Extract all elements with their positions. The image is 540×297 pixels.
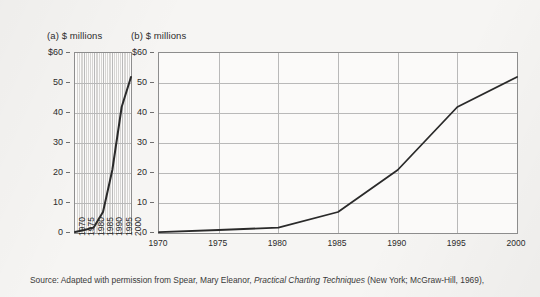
x-axis-tick-label: 2000 bbox=[507, 238, 526, 248]
page-background: (a) $ millions $6050403020100 1970197519… bbox=[0, 0, 540, 297]
y-axis-tick-mark bbox=[66, 202, 70, 203]
caption-book-title: Practical Charting Techniques bbox=[254, 275, 365, 285]
x-axis-tick-label: 1970 bbox=[149, 238, 168, 248]
data-series-line bbox=[159, 53, 517, 233]
y-axis-tick-label: 50 bbox=[121, 77, 147, 87]
y-axis-tick-mark bbox=[66, 232, 70, 233]
y-axis-tick-mark bbox=[66, 112, 70, 113]
x-axis-tick-label: 1995 bbox=[447, 238, 466, 248]
chart-a-y-axis: $6050403020100 bbox=[44, 52, 70, 234]
y-axis-tick-label: 0 bbox=[37, 227, 63, 237]
y-axis-tick-label: $60 bbox=[37, 47, 63, 57]
x-axis-tick-label: 1975 bbox=[208, 238, 227, 248]
y-axis-tick-label: 50 bbox=[37, 77, 63, 87]
x-axis-tick-label: 1990 bbox=[387, 238, 406, 248]
y-axis-tick-mark bbox=[66, 142, 70, 143]
chart-a-x-axis: 1970197519801985199019952000 bbox=[74, 236, 132, 268]
y-axis-tick-mark bbox=[150, 142, 154, 143]
chart-b-title: (b) $ millions bbox=[131, 30, 186, 41]
y-axis-tick-label: 10 bbox=[121, 197, 147, 207]
y-axis-tick-label: $60 bbox=[121, 47, 147, 57]
y-axis-tick-mark bbox=[150, 202, 154, 203]
y-axis-tick-label: 30 bbox=[121, 137, 147, 147]
caption-tail: (New York; McGraw-Hill, 1969), bbox=[365, 275, 484, 285]
x-axis-tick-label: 1985 bbox=[328, 238, 347, 248]
source-caption: Source: Adapted with permission from Spe… bbox=[30, 275, 530, 286]
y-axis-tick-label: 40 bbox=[121, 107, 147, 117]
chart-b-y-axis: $6050403020100 bbox=[128, 52, 154, 234]
x-axis-tick-label: 1975 bbox=[86, 217, 96, 236]
y-axis-tick-mark bbox=[66, 82, 70, 83]
y-axis-tick-mark bbox=[66, 52, 70, 53]
y-axis-tick-label: 20 bbox=[121, 167, 147, 177]
figure-area: (a) $ millions $6050403020100 1970197519… bbox=[0, 0, 540, 268]
y-axis-tick-mark bbox=[150, 232, 154, 233]
chart-b-x-axis: 1970197519801985199019952000 bbox=[158, 238, 518, 252]
chart-b-plot-area bbox=[158, 52, 518, 234]
chart-a-title: (a) $ millions bbox=[47, 30, 102, 41]
y-axis-tick-mark bbox=[150, 52, 154, 53]
caption-lead: Source: Adapted with permission from Spe… bbox=[30, 275, 254, 285]
y-axis-tick-label: 10 bbox=[37, 197, 63, 207]
y-axis-tick-label: 20 bbox=[37, 167, 63, 177]
y-axis-tick-mark bbox=[150, 112, 154, 113]
x-axis-tick-label: 1980 bbox=[268, 238, 287, 248]
y-axis-tick-label: 0 bbox=[121, 227, 147, 237]
y-axis-tick-mark bbox=[150, 82, 154, 83]
y-axis-tick-mark bbox=[66, 172, 70, 173]
y-axis-tick-mark bbox=[150, 172, 154, 173]
y-axis-tick-label: 40 bbox=[37, 107, 63, 117]
y-axis-tick-label: 30 bbox=[37, 137, 63, 147]
